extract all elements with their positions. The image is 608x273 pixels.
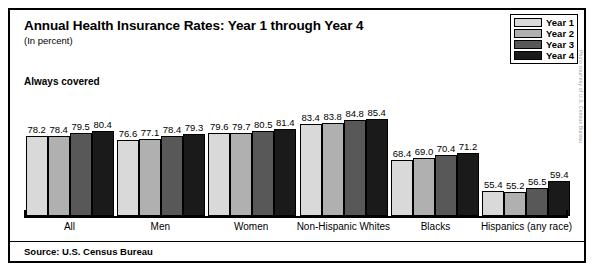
bar-group: 76.677.178.479.3: [115, 94, 206, 216]
bar: [322, 123, 344, 216]
bar-column: 79.7: [230, 94, 252, 216]
side-credit-text: Photo courtesy of U.S. Census Bureau: [570, 50, 584, 260]
bar: [526, 188, 548, 216]
category-label: Men: [115, 221, 206, 232]
bar: [92, 131, 114, 216]
legend-swatch-year-2: [514, 29, 542, 38]
bar: [70, 133, 92, 216]
legend-label-year-2: Year 2: [546, 29, 574, 39]
bar-column: 79.5: [70, 94, 92, 216]
bar: [208, 133, 230, 216]
bar: [344, 120, 366, 216]
legend-item-year-2: Year 2: [514, 28, 574, 39]
bar: [183, 134, 205, 216]
x-axis-category-labels: AllMenWomenNon-Hispanic WhitesBlacksHisp…: [24, 221, 572, 232]
bar-group: 78.278.479.580.4: [24, 94, 115, 216]
bar-column: 78.4: [161, 94, 183, 216]
legend-item-year-3: Year 3: [514, 39, 574, 50]
legend-swatch-year-4: [514, 51, 542, 60]
bar-column: 56.5: [526, 94, 548, 216]
source-note: Source: U.S. Census Bureau: [24, 246, 153, 257]
bar-groups: 78.278.479.580.476.677.178.479.379.679.7…: [24, 94, 572, 216]
bar: [252, 131, 274, 216]
legend-swatch-year-1: [514, 18, 542, 27]
category-label: Hispanics (any race): [481, 221, 572, 232]
bar: [161, 136, 183, 216]
legend-item-year-1: Year 1: [514, 17, 574, 28]
bar-column: 59.4: [548, 94, 570, 216]
bar-column: 78.4: [48, 94, 70, 216]
bar-column: 76.6: [117, 94, 139, 216]
footer-divider: [10, 241, 584, 242]
bar: [504, 192, 526, 216]
bar: [413, 158, 435, 216]
x-axis-tick-right: [566, 210, 568, 217]
category-label: Women: [206, 221, 297, 232]
legend-label-year-3: Year 3: [546, 40, 574, 50]
chart-figure: Annual Health Insurance Rates: Year 1 th…: [8, 8, 586, 263]
legend-swatch-year-3: [514, 40, 542, 49]
category-label: Blacks: [390, 221, 481, 232]
x-axis-tick-left: [24, 210, 26, 217]
bar-column: 79.6: [208, 94, 230, 216]
bar-group: 79.679.780.581.4: [207, 94, 298, 216]
bar: [366, 119, 388, 216]
category-label: Non-Hispanic Whites: [297, 221, 390, 232]
chart-subtitle: (In percent): [24, 35, 574, 46]
bar: [117, 140, 139, 216]
legend-item-year-4: Year 4: [514, 50, 574, 61]
bar: [300, 124, 322, 216]
bar-column: 55.2: [504, 94, 526, 216]
series-section-label: Always covered: [24, 76, 100, 87]
bar: [48, 136, 70, 216]
bar: [139, 139, 161, 216]
bar-column: 80.5: [252, 94, 274, 216]
category-label: All: [24, 221, 115, 232]
bar: [230, 133, 252, 216]
bar-column: 80.4: [92, 94, 114, 216]
chart-legend: Year 1 Year 2 Year 3 Year 4: [510, 14, 578, 64]
bar-column: 78.2: [26, 94, 48, 216]
chart-title-lead: Annual Health Insurance Rates:: [24, 18, 224, 33]
bar-group: 68.469.070.471.2: [389, 94, 480, 216]
chart-plot-area: 78.278.479.580.476.677.178.479.379.679.7…: [24, 94, 572, 216]
chart-header: Annual Health Insurance Rates: Year 1 th…: [24, 18, 574, 46]
bar-column: 79.3: [183, 94, 205, 216]
bar: [26, 136, 48, 216]
bar-column: 69.0: [413, 94, 435, 216]
bar-column: 77.1: [139, 94, 161, 216]
x-axis-line: [24, 216, 568, 218]
chart-title-rest: Year 1 through Year 4: [224, 18, 363, 33]
chart-title: Annual Health Insurance Rates: Year 1 th…: [24, 18, 574, 33]
bar-column: 71.2: [457, 94, 479, 216]
bar-group: 83.483.884.885.4: [298, 94, 389, 216]
bar: [391, 160, 413, 216]
legend-label-year-1: Year 1: [546, 18, 574, 28]
bar-group: 55.455.256.559.4: [481, 94, 572, 216]
bar-column: 55.4: [482, 94, 504, 216]
bar: [482, 191, 504, 216]
bar-column: 70.4: [435, 94, 457, 216]
bar: [274, 129, 296, 216]
bar: [435, 155, 457, 216]
